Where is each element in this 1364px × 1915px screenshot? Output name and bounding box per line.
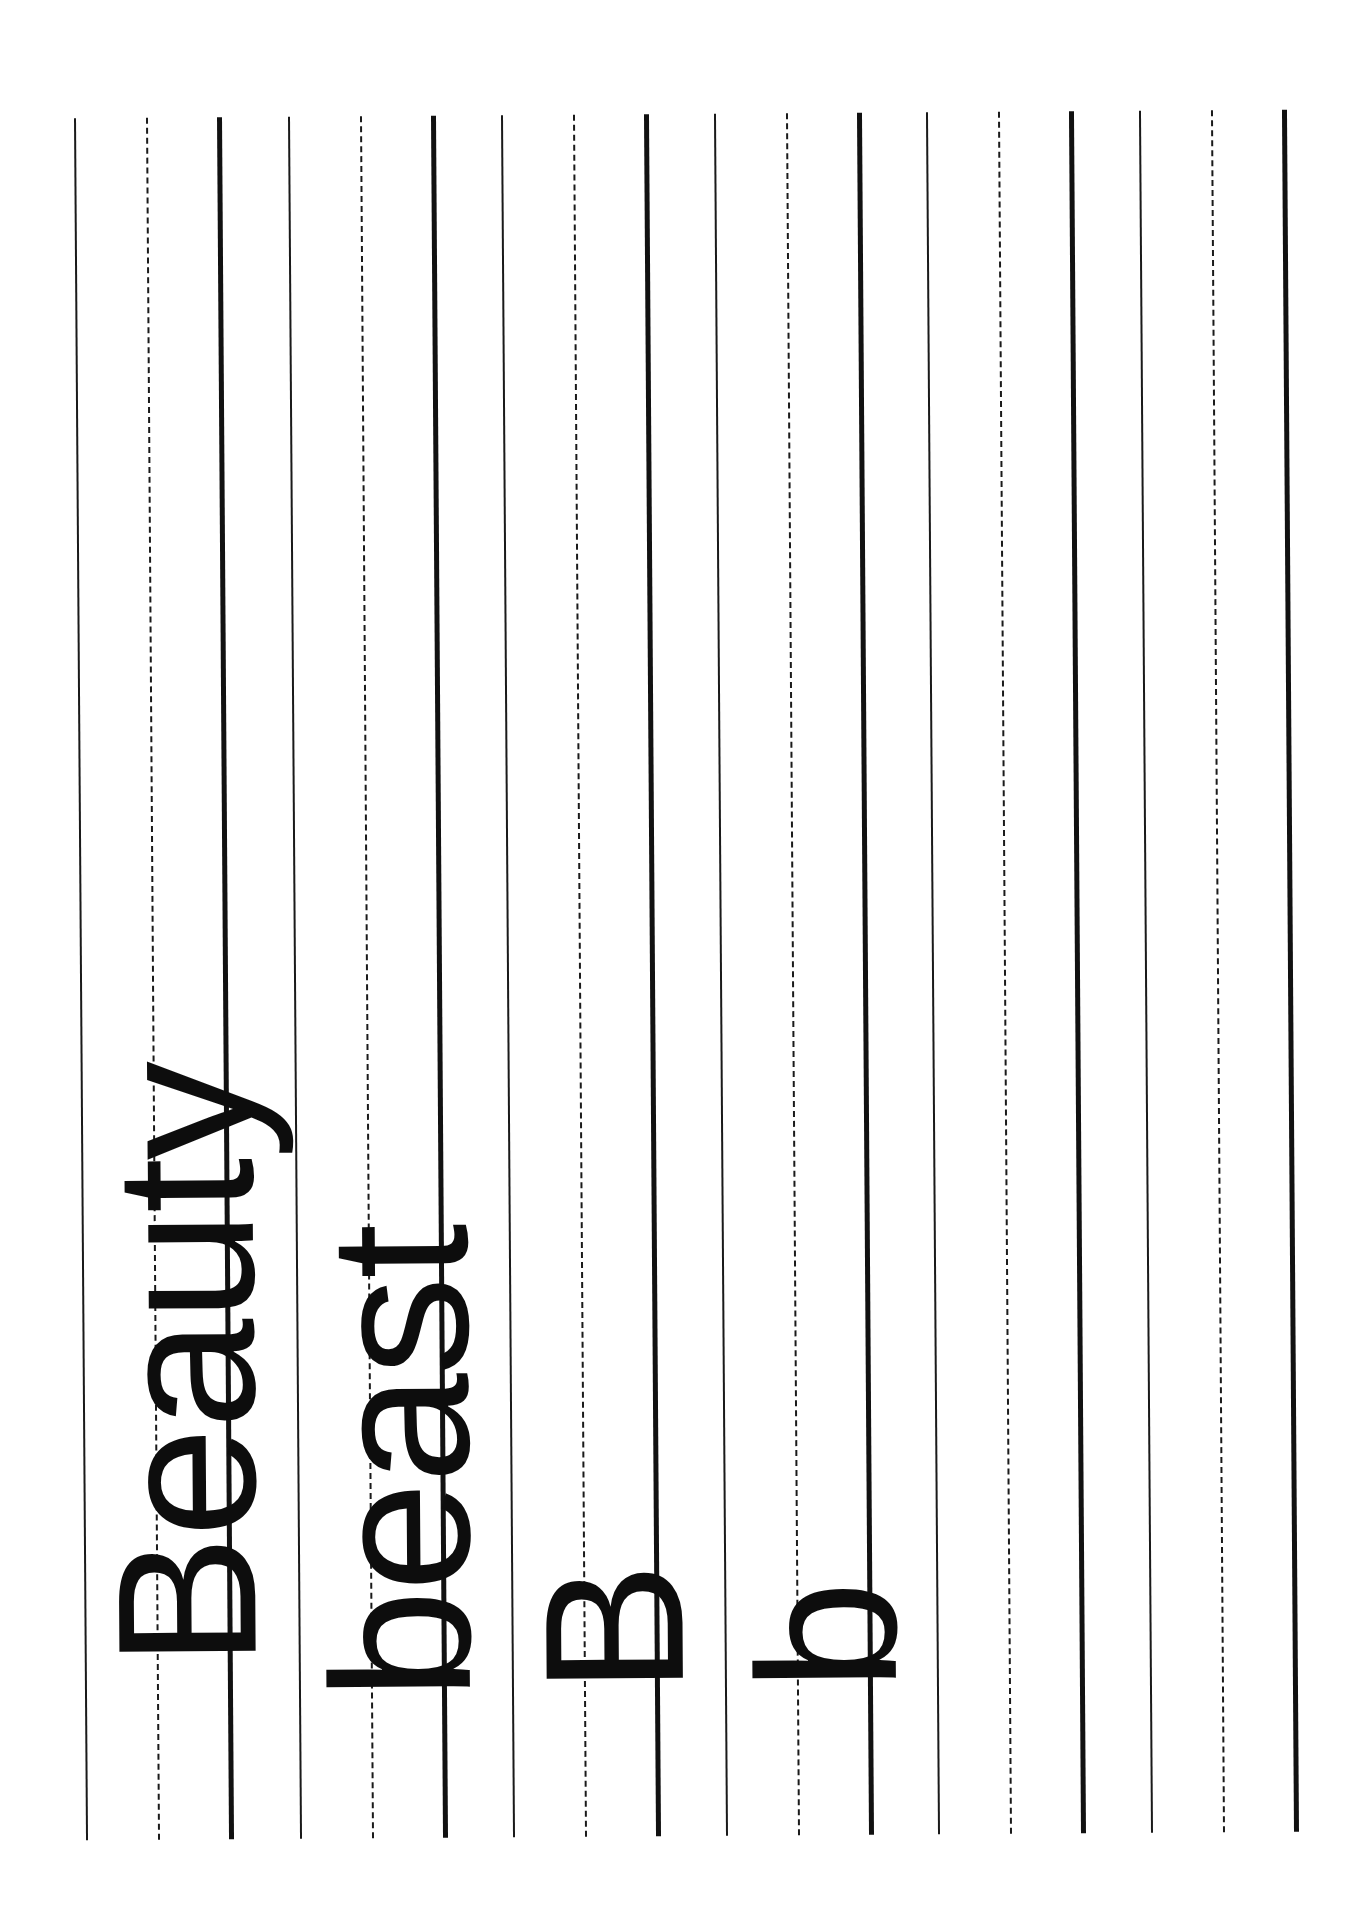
midline-dashed <box>786 113 800 1835</box>
practice-row-6 <box>1139 110 1301 1833</box>
midline-dashed <box>1211 110 1225 1832</box>
baseline <box>857 113 874 1835</box>
baseline <box>1282 110 1299 1832</box>
baseline <box>1069 111 1086 1833</box>
top-line <box>926 112 940 1834</box>
practice-row-5 <box>926 111 1088 1834</box>
worksheet-page: Beauty beast B b <box>0 0 1364 1915</box>
practice-word-beast: beast <box>300 1225 501 1701</box>
practice-letter-uppercase-b: B <box>515 1564 714 1695</box>
practice-letter-lowercase-b: b <box>728 1582 927 1692</box>
practice-row-4 <box>714 113 876 1836</box>
midline-dashed <box>998 112 1012 1834</box>
practice-word-beauty: Beauty <box>85 1062 287 1668</box>
top-line <box>1139 111 1153 1833</box>
